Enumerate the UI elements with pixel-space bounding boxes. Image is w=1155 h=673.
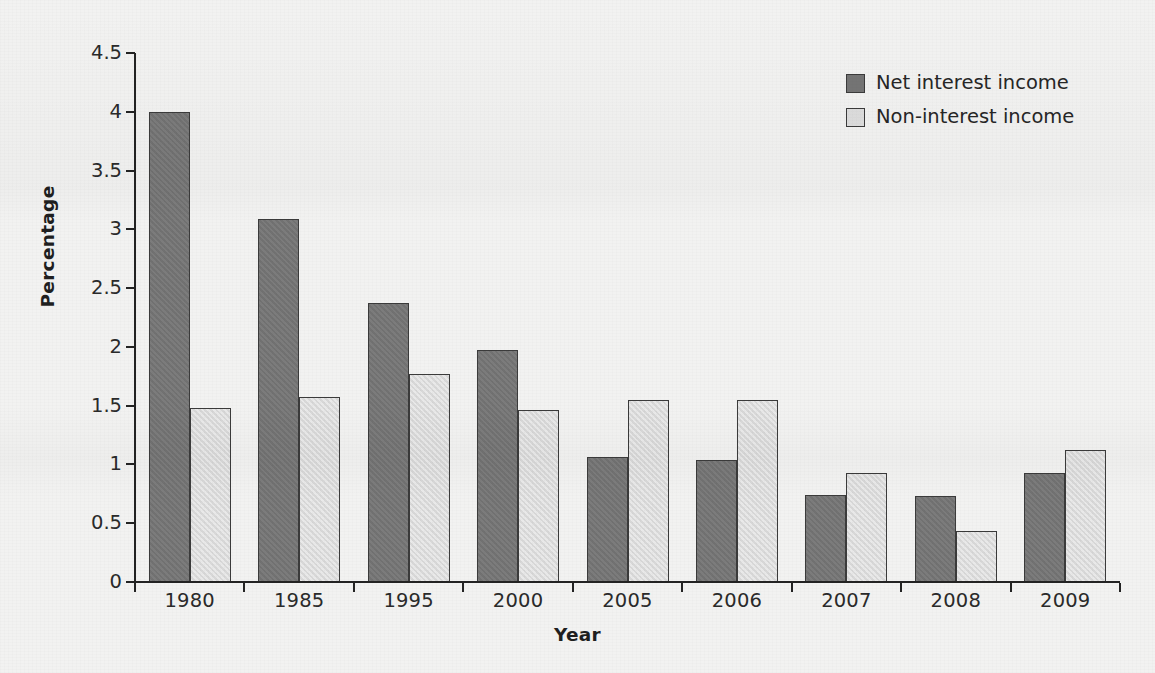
bar-2005-non-interest-income xyxy=(628,400,669,582)
y-axis-line xyxy=(134,53,136,583)
y-axis-tick-label: 0 xyxy=(52,572,122,592)
y-axis-tick-label: 0.5 xyxy=(52,513,122,533)
x-axis-tick xyxy=(572,583,574,592)
chart-legend: Net interest income Non-interest income xyxy=(846,68,1074,136)
x-axis-tick-label: 2006 xyxy=(682,591,791,611)
x-axis-tick xyxy=(791,583,793,592)
x-axis-tick xyxy=(353,583,355,592)
bar-1985-net-interest-income xyxy=(258,219,299,582)
x-axis-title: Year xyxy=(0,624,1155,645)
x-axis-tick xyxy=(462,583,464,592)
bar-2009-non-interest-income xyxy=(1065,450,1106,582)
legend-item-non-interest-income: Non-interest income xyxy=(846,102,1074,132)
bar-2008-non-interest-income xyxy=(956,531,997,582)
x-axis-tick-label: 1980 xyxy=(135,591,244,611)
bar-1995-net-interest-income xyxy=(368,303,409,582)
bar-2009-net-interest-income xyxy=(1024,473,1065,582)
y-axis-tick-label: 4.5 xyxy=(52,43,122,63)
x-axis-tick-label: 1995 xyxy=(354,591,463,611)
x-axis-tick xyxy=(681,583,683,592)
bar-2006-non-interest-income xyxy=(737,400,778,582)
legend-label-non-interest-income: Non-interest income xyxy=(876,107,1074,127)
x-axis-tick xyxy=(243,583,245,592)
y-axis-tick-label: 1 xyxy=(52,454,122,474)
bar-2006-net-interest-income xyxy=(696,460,737,582)
bar-2000-net-interest-income xyxy=(477,350,518,582)
x-axis-tick-label: 2007 xyxy=(792,591,901,611)
bar-2007-non-interest-income xyxy=(846,473,887,582)
x-axis-tick xyxy=(900,583,902,592)
x-axis-tick-label: 1985 xyxy=(244,591,353,611)
y-axis-tick-label: 3.5 xyxy=(52,161,122,181)
x-axis-tick-label: 2009 xyxy=(1011,591,1120,611)
legend-label-net-interest-income: Net interest income xyxy=(876,73,1069,93)
x-axis-tick xyxy=(1010,583,1012,592)
y-axis-tick-label: 3 xyxy=(52,219,122,239)
chart-figure: 00.511.522.533.544.5 1980198519952000200… xyxy=(0,0,1155,673)
legend-swatch-icon-non-interest-income xyxy=(846,108,865,127)
x-axis-tick-label: 2005 xyxy=(573,591,682,611)
bar-1995-non-interest-income xyxy=(409,374,450,582)
bar-2008-net-interest-income xyxy=(915,496,956,582)
y-axis-tick-label: 2.5 xyxy=(52,278,122,298)
x-axis-tick-label: 2000 xyxy=(463,591,572,611)
bar-2000-non-interest-income xyxy=(518,410,559,582)
x-axis-tick xyxy=(1119,583,1121,592)
bar-1985-non-interest-income xyxy=(299,397,340,582)
legend-item-net-interest-income: Net interest income xyxy=(846,68,1074,98)
x-axis-tick-label: 2008 xyxy=(901,591,1010,611)
y-axis-tick-label: 2 xyxy=(52,337,122,357)
bar-2005-net-interest-income xyxy=(587,457,628,582)
bar-1980-net-interest-income xyxy=(149,112,190,582)
y-axis-tick-label: 4 xyxy=(52,102,122,122)
y-axis-tick-label: 1.5 xyxy=(52,396,122,416)
legend-swatch-icon-net-interest-income xyxy=(846,74,865,93)
bar-2007-net-interest-income xyxy=(805,495,846,582)
x-axis-tick xyxy=(134,583,136,592)
x-axis-line xyxy=(134,581,1120,583)
bar-1980-non-interest-income xyxy=(190,408,231,582)
y-axis-title: Percentage xyxy=(37,167,58,327)
